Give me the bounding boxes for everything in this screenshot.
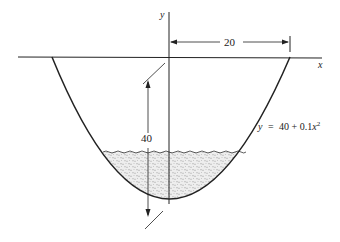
y-axis-label: y <box>159 9 165 20</box>
equation-label: y = 40 + 0.1x2 <box>257 120 321 132</box>
depth-dimension: 40 <box>141 63 165 229</box>
half-width-dimension: 20 <box>170 36 290 52</box>
parabolic-channel-diagram: x y 20 40 y = 40 + 0.1x2 <box>0 0 340 242</box>
half-width-label: 20 <box>224 36 236 48</box>
water-region <box>40 151 300 212</box>
x-axis-label: x <box>317 59 323 70</box>
depth-label: 40 <box>141 132 153 144</box>
x-axis <box>18 57 322 58</box>
